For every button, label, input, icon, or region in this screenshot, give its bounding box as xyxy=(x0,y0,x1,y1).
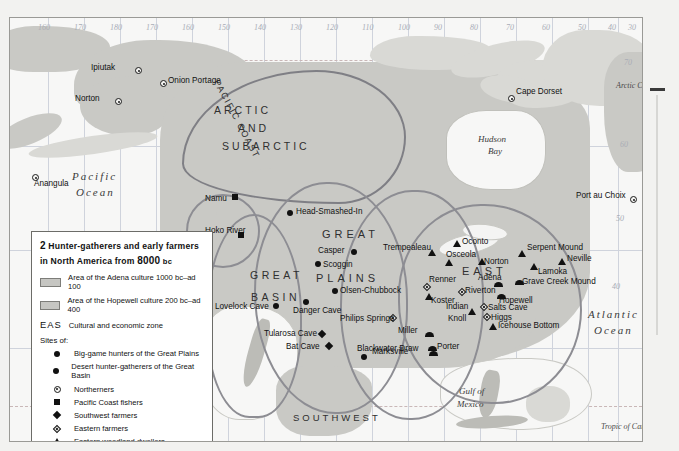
filled-square-marker-icon xyxy=(54,399,60,405)
site-label: Norton xyxy=(75,94,100,103)
legend-site-type-label: Big-game hunters of the Great Plains xyxy=(74,349,199,358)
geographic-label: Gulf of xyxy=(459,386,484,396)
lon-tick: 100 xyxy=(398,23,410,32)
ocean-label: Ocean xyxy=(594,324,633,336)
lat-tick: 40 xyxy=(612,282,620,291)
swatch-hopewell-label: Area of the Hopewell culture 200 bc–ad 4… xyxy=(67,296,204,314)
legend-site-type-label: Northerners xyxy=(74,385,114,394)
swatch-adena xyxy=(40,278,61,287)
site-label: Namu xyxy=(205,194,227,203)
site-label: Icehouse Bottom xyxy=(498,321,559,330)
filled-circle-marker-icon xyxy=(303,299,309,305)
ringed-circle-marker-icon xyxy=(508,95,515,102)
lon-tick: 160 xyxy=(182,23,194,32)
filled-triangle-marker-icon xyxy=(489,323,497,330)
filled-circle-marker-icon xyxy=(332,288,338,294)
lon-tick: 40 xyxy=(608,23,616,32)
legend-site-type: Northerners xyxy=(40,385,204,394)
region-label: SUBARCTIC xyxy=(222,140,310,152)
filled-circle-marker-icon xyxy=(53,368,59,374)
geographic-label: Bay xyxy=(488,146,502,156)
region-label: GREAT xyxy=(250,269,303,281)
site-label: Ipiutak xyxy=(91,63,115,72)
filled-triangle-marker-icon xyxy=(468,308,476,315)
filled-diamond-marker-icon xyxy=(53,411,61,419)
legend-site-type: Eastern farmers xyxy=(40,424,204,433)
site-label: Riverton xyxy=(465,286,496,295)
site-label: Hopewell xyxy=(499,296,533,305)
geographic-label: Arctic Circle xyxy=(616,81,643,90)
region-label: SOUTHWEST xyxy=(293,412,381,423)
lon-tick: 180 xyxy=(110,23,122,32)
legend-site-type-label: Eastern woodland dwellers xyxy=(74,437,165,442)
legend-number: 2 xyxy=(40,240,46,251)
site-label: Anangula xyxy=(34,179,69,188)
site-label: Miller xyxy=(398,326,418,335)
site-label: Onion Portage xyxy=(168,76,221,85)
dome-marker-icon xyxy=(428,346,437,351)
site-label: Lamoka xyxy=(538,267,567,276)
legend-symbol xyxy=(40,424,74,433)
legend-symbol xyxy=(40,367,71,376)
site-label: Renner xyxy=(429,275,456,284)
lon-tick: 30 xyxy=(628,23,636,32)
lon-tick: 110 xyxy=(362,23,373,32)
legend-site-type-label: Eastern farmers xyxy=(74,424,128,433)
lon-tick: 170 xyxy=(146,23,158,32)
filled-triangle-marker-icon xyxy=(445,259,453,266)
swatch-adena-label: Area of the Adena culture 1000 bc–ad 100 xyxy=(68,273,204,291)
lat-tick: 70 xyxy=(624,58,632,67)
lon-tick: 60 xyxy=(542,23,550,32)
legend-zone-key: EAS Cultural and economic zone xyxy=(40,319,204,330)
legend-site-type: Pacific Coast fishers xyxy=(40,398,204,407)
lon-tick: 70 xyxy=(506,23,514,32)
site-label: Port au Choix xyxy=(576,191,626,200)
legend-site-type-label: Southwest farmers xyxy=(74,411,137,420)
dome-marker-icon xyxy=(425,332,434,337)
legend-sites-header: Sites of: xyxy=(40,336,204,345)
site-label: Philips Springs xyxy=(340,314,394,323)
legend-site-type-label: Pacific Coast fishers xyxy=(74,398,143,407)
site-label: Bat Cave xyxy=(286,342,320,351)
legend-site-type: Big-game hunters of the Great Plains xyxy=(40,349,204,358)
legend-site-type: Eastern woodland dwellers xyxy=(40,437,204,442)
geographic-label: Mexico xyxy=(457,399,483,409)
site-label: Cape Dorset xyxy=(516,87,562,96)
site-label: Knoll xyxy=(448,314,466,323)
ocean-label: Atlantic xyxy=(588,308,639,320)
lat-tick: 50 xyxy=(616,214,624,223)
map-canvas[interactable]: 160 170 180 170 160 150 140 130 120 110 … xyxy=(9,17,643,442)
region-label: ARCTIC xyxy=(214,104,271,116)
site-label: Serpent Mound xyxy=(527,243,583,252)
map-legend[interactable]: 2 Hunter-gatherers and early farmers in … xyxy=(31,231,213,442)
lon-tick: 50 xyxy=(578,23,586,32)
lon-tick: 90 xyxy=(434,23,442,32)
geographic-label: Tropic of Cancer xyxy=(601,422,643,431)
legend-title-line1: Hunter-gatherers and early farmers xyxy=(48,241,199,251)
scrollbar-handle[interactable] xyxy=(650,88,665,91)
site-label: Head-Smashed-In xyxy=(296,207,362,216)
ringed-circle-marker-icon xyxy=(54,386,61,393)
site-label: Porter xyxy=(437,342,459,351)
dome-marker-icon xyxy=(429,351,438,356)
lon-tick: 80 xyxy=(470,23,478,32)
legend-site-type-list: Big-game hunters of the Great PlainsDese… xyxy=(40,349,204,442)
legend-symbol xyxy=(40,398,74,407)
lon-tick: 140 xyxy=(254,23,266,32)
site-label: Trempealeau xyxy=(383,243,431,252)
filled-triangle-marker-icon xyxy=(53,438,61,442)
map-screenshot: 160 170 180 170 160 150 140 130 120 110 … xyxy=(0,0,679,451)
site-label: Lovelock Cave xyxy=(215,302,269,311)
legend-title-date: 8000 xyxy=(137,255,160,266)
filled-circle-marker-icon xyxy=(273,303,279,309)
ringed-circle-marker-icon xyxy=(160,80,167,87)
site-label: Norton xyxy=(484,257,509,266)
site-label: Scoggin xyxy=(323,260,353,269)
scrollbar-track[interactable] xyxy=(656,95,658,335)
region-label: GREAT xyxy=(322,228,379,240)
region-label: PLAINS xyxy=(316,272,379,284)
filled-triangle-marker-icon xyxy=(558,258,566,265)
dome-marker-icon xyxy=(494,282,503,287)
filled-circle-marker-icon xyxy=(287,210,293,216)
legend-symbol xyxy=(40,349,74,358)
